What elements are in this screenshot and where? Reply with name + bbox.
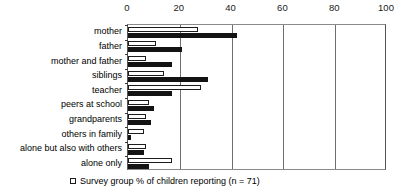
bar-filled (128, 120, 151, 125)
bar-filled (128, 62, 172, 67)
bar-open (128, 129, 144, 134)
bar-open (128, 144, 146, 149)
bar-filled (128, 77, 208, 82)
bar-open (128, 85, 201, 90)
x-tick-label: 60 (277, 2, 288, 14)
gridline (283, 25, 284, 169)
y-category-label: mother (94, 26, 122, 36)
y-tickmark (125, 156, 128, 157)
bar-open (128, 27, 198, 32)
y-axis-category-labels: motherfathermother and fathersiblingstea… (0, 24, 124, 170)
y-category-label: father (99, 41, 122, 51)
legend-label: Survey group % of children reporting (n … (80, 176, 260, 186)
y-category-label: alone but also with others (20, 143, 122, 153)
y-category-label: peers at school (61, 99, 122, 109)
y-category-label: teacher (92, 85, 122, 95)
x-tick-label: 20 (174, 2, 185, 14)
x-tick-label: 40 (225, 2, 236, 14)
x-tick-label: 80 (329, 2, 340, 14)
bar-filled (128, 91, 172, 96)
x-axis-tick-labels: 020406080100 (0, 2, 401, 18)
y-category-label: others in family (61, 129, 122, 139)
bar-open (128, 100, 149, 105)
gridline (335, 25, 336, 169)
bar-filled (128, 150, 144, 155)
bar-filled (128, 135, 131, 140)
bar-open (128, 114, 146, 119)
y-category-label: mother and father (51, 56, 122, 66)
y-category-label: alone only (81, 158, 122, 168)
y-category-label: siblings (92, 70, 122, 80)
x-tick-label: 100 (378, 2, 394, 14)
y-category-label: grandparents (69, 114, 122, 124)
bar-filled (128, 33, 237, 38)
x-tick-label: 0 (124, 2, 129, 14)
bar-filled (128, 164, 149, 169)
bar-filled (128, 47, 182, 52)
plot-area (127, 24, 386, 170)
legend-swatch-open-square (70, 178, 76, 184)
bar-open (128, 41, 156, 46)
bar-open (128, 71, 164, 76)
horizontal-bar-chart: 020406080100 motherfathermother and fath… (0, 0, 401, 187)
bar-open (128, 158, 172, 163)
y-tickmark (125, 127, 128, 128)
y-tickmark (125, 83, 128, 84)
bar-filled (128, 106, 154, 111)
bar-open (128, 56, 146, 61)
chart-legend: Survey group % of children reporting (n … (70, 176, 260, 186)
gridline (232, 25, 233, 169)
y-tickmark (125, 54, 128, 55)
